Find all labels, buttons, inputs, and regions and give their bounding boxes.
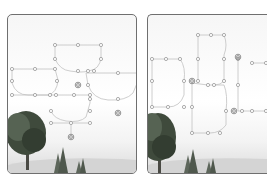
left-diagram xyxy=(8,15,137,174)
left-panel xyxy=(7,14,137,174)
right-diagram xyxy=(148,15,267,174)
right-panel xyxy=(147,14,267,174)
